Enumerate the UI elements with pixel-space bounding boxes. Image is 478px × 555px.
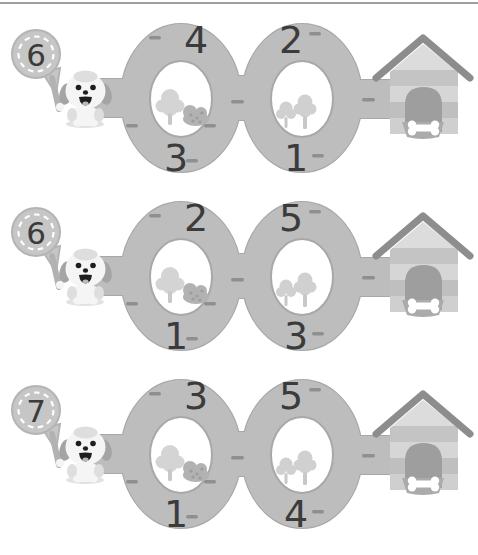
- road-dash: [231, 456, 244, 460]
- road-dash: [126, 124, 138, 128]
- number-badge: 6: [12, 208, 60, 287]
- road-dash: [149, 392, 161, 396]
- loop1-top-number: 2: [184, 196, 208, 240]
- road-dash: [312, 154, 324, 158]
- road-dash: [362, 98, 375, 102]
- badge-number: 6: [26, 215, 46, 251]
- track: [84, 202, 400, 350]
- road-dash: [309, 210, 321, 214]
- road-dash: [231, 278, 244, 282]
- loop1-hole: [150, 61, 212, 137]
- road-dash: [309, 388, 321, 392]
- road-dash: [362, 454, 375, 458]
- badge-number: 7: [26, 393, 46, 429]
- loop2-top-number: 5: [279, 196, 303, 240]
- loop2-bottom-number: 1: [284, 136, 308, 180]
- track: [84, 380, 400, 528]
- loop1-bottom-number: 1: [164, 314, 188, 358]
- puzzle-row: 2 1 5 3: [0, 190, 478, 368]
- road-dash: [149, 214, 161, 218]
- road-dash: [204, 480, 216, 484]
- loop1-hole: [150, 417, 212, 493]
- road-dash: [362, 276, 375, 280]
- track: [84, 24, 400, 172]
- road-dash: [231, 100, 244, 104]
- loop1-top-number: 3: [184, 374, 208, 418]
- top-divider-rule: [0, 2, 478, 4]
- loop1-bottom-number: 1: [164, 492, 188, 536]
- loop1-bottom-number: 3: [164, 136, 188, 180]
- road-dash: [204, 124, 216, 128]
- loop2-top-number: 2: [279, 18, 303, 62]
- doghouse-icon: [376, 216, 470, 317]
- puzzle-row: 3 1 5 4: [0, 368, 478, 546]
- badge-number: 6: [26, 37, 46, 73]
- road-dash: [149, 36, 161, 40]
- number-badge: 7: [12, 386, 60, 465]
- road-dash: [312, 332, 324, 336]
- loop2-bottom-number: 3: [284, 314, 308, 358]
- puzzle-row: 4 3 2 1: [0, 12, 478, 190]
- loop2-top-number: 5: [279, 374, 303, 418]
- road-dash: [126, 302, 138, 306]
- road-dash: [309, 32, 321, 36]
- loop1-top-number: 4: [184, 18, 208, 62]
- puzzle-rows: 4 3 2 1: [0, 12, 478, 546]
- road-dash: [204, 302, 216, 306]
- worksheet-page: 4 3 2 1: [0, 0, 478, 555]
- loop2-bottom-number: 4: [284, 492, 308, 536]
- doghouse-icon: [376, 38, 470, 139]
- loop1-hole: [150, 239, 212, 315]
- road-dash: [126, 480, 138, 484]
- road-dash: [312, 510, 324, 514]
- doghouse-icon: [376, 394, 470, 495]
- number-badge: 6: [12, 30, 60, 109]
